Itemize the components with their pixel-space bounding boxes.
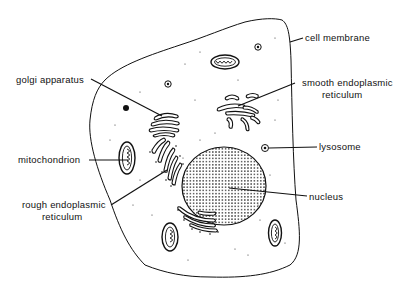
label-lysosome: lysosome bbox=[319, 141, 361, 152]
mitochondrion-bottom-right bbox=[269, 220, 282, 246]
label-rough-er-line2: reticulum bbox=[42, 211, 82, 222]
leader-cell-membrane bbox=[290, 38, 303, 42]
label-mitochondrion: mitochondrion bbox=[18, 154, 80, 165]
mitochondrion-top bbox=[211, 55, 239, 69]
leader-rough-er bbox=[111, 170, 167, 205]
vesicle-dark bbox=[123, 105, 129, 111]
mitochondrion-bottom-left bbox=[162, 223, 178, 251]
leader-smooth-er bbox=[238, 83, 295, 106]
label-smooth-er-line2: reticulum bbox=[322, 89, 362, 100]
vesicle-top-left bbox=[165, 81, 171, 87]
label-nucleus: nucleus bbox=[309, 191, 343, 202]
mitochondrion-left bbox=[119, 142, 135, 174]
label-smooth-er-line1: smooth endoplasmic bbox=[302, 77, 393, 88]
vesicle-top-right bbox=[255, 44, 261, 50]
leader-lysosome bbox=[269, 147, 317, 148]
golgi-shape bbox=[149, 113, 179, 137]
label-golgi-apparatus: golgi apparatus bbox=[16, 74, 84, 85]
label-cell-membrane: cell membrane bbox=[305, 32, 370, 43]
lysosome-shape bbox=[262, 145, 269, 152]
nucleus-shape bbox=[182, 147, 266, 225]
label-rough-er-line1: rough endoplasmic bbox=[22, 199, 106, 210]
